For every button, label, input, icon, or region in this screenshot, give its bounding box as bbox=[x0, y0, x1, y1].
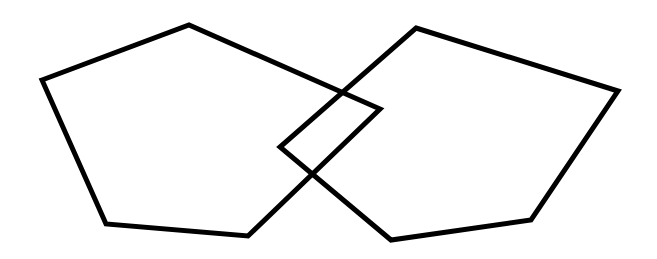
right-pentagon bbox=[280, 28, 618, 240]
left-pentagon bbox=[42, 25, 380, 236]
overlapping-pentagons-diagram bbox=[0, 0, 657, 259]
diagram-canvas bbox=[0, 0, 657, 259]
